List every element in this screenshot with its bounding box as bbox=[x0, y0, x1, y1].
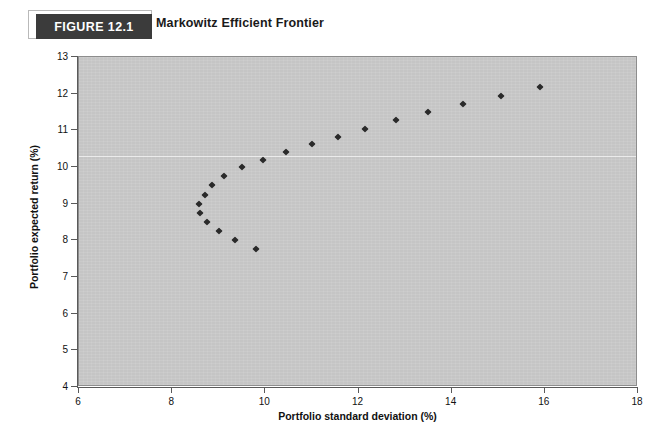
data-point bbox=[232, 237, 239, 244]
y-tick-label: 4 bbox=[36, 381, 68, 392]
data-point bbox=[308, 141, 315, 148]
x-tick-mark bbox=[78, 387, 79, 393]
data-point bbox=[497, 92, 504, 99]
y-tick-mark bbox=[71, 203, 77, 204]
plot-area bbox=[78, 56, 637, 386]
x-tick-mark bbox=[451, 387, 452, 393]
x-tick-mark bbox=[171, 387, 172, 393]
x-tick-mark bbox=[544, 387, 545, 393]
y-tick-label: 9 bbox=[36, 197, 68, 208]
x-tick-mark bbox=[264, 387, 265, 393]
x-tick-label: 18 bbox=[631, 396, 642, 407]
y-tick-label: 5 bbox=[36, 344, 68, 355]
data-point bbox=[362, 125, 369, 132]
x-tick-label: 8 bbox=[168, 396, 174, 407]
x-tick-label: 10 bbox=[259, 396, 270, 407]
y-tick-mark bbox=[71, 93, 77, 94]
figure-header: FIGURE 12.1 Markowitz Efficient Frontier bbox=[0, 0, 656, 46]
data-point bbox=[238, 163, 245, 170]
data-point bbox=[392, 117, 399, 124]
y-tick-mark bbox=[71, 349, 77, 350]
data-point bbox=[215, 228, 222, 235]
y-tick-label: 7 bbox=[36, 271, 68, 282]
data-point bbox=[259, 156, 266, 163]
scan-line-artifact bbox=[79, 156, 636, 157]
y-tick-mark bbox=[71, 276, 77, 277]
figure-title: Markowitz Efficient Frontier bbox=[156, 16, 324, 30]
y-tick-mark bbox=[71, 239, 77, 240]
data-point bbox=[334, 133, 341, 140]
data-point bbox=[252, 245, 259, 252]
data-point bbox=[201, 191, 208, 198]
y-tick-label: 10 bbox=[36, 161, 68, 172]
y-tick-mark bbox=[71, 129, 77, 130]
data-point bbox=[425, 108, 432, 115]
y-tick-mark bbox=[71, 56, 77, 57]
y-tick-mark bbox=[71, 386, 77, 387]
data-point bbox=[196, 200, 203, 207]
data-point bbox=[197, 209, 204, 216]
data-point bbox=[221, 173, 228, 180]
figure-badge: FIGURE 12.1 bbox=[36, 14, 152, 39]
x-tick-label: 14 bbox=[445, 396, 456, 407]
y-axis-line bbox=[77, 56, 78, 387]
y-tick-mark bbox=[71, 313, 77, 314]
x-tick-label: 16 bbox=[538, 396, 549, 407]
x-tick-label: 6 bbox=[75, 396, 81, 407]
y-tick-label: 11 bbox=[36, 124, 68, 135]
y-axis-title: Portfolio expected return (%) bbox=[28, 87, 40, 347]
data-point bbox=[283, 149, 290, 156]
y-tick-mark bbox=[71, 166, 77, 167]
y-tick-label: 13 bbox=[36, 51, 68, 62]
x-tick-label: 12 bbox=[352, 396, 363, 407]
data-point bbox=[204, 218, 211, 225]
data-point bbox=[460, 100, 467, 107]
y-tick-label: 12 bbox=[36, 87, 68, 98]
x-axis-title: Portfolio standard deviation (%) bbox=[78, 410, 637, 422]
data-point bbox=[208, 182, 215, 189]
data-point bbox=[537, 84, 544, 91]
y-tick-label: 8 bbox=[36, 234, 68, 245]
chart-area: 45678910111213681012141618 Portfolio exp… bbox=[0, 46, 656, 437]
x-tick-mark bbox=[358, 387, 359, 393]
y-tick-label: 6 bbox=[36, 307, 68, 318]
x-tick-mark bbox=[637, 387, 638, 393]
